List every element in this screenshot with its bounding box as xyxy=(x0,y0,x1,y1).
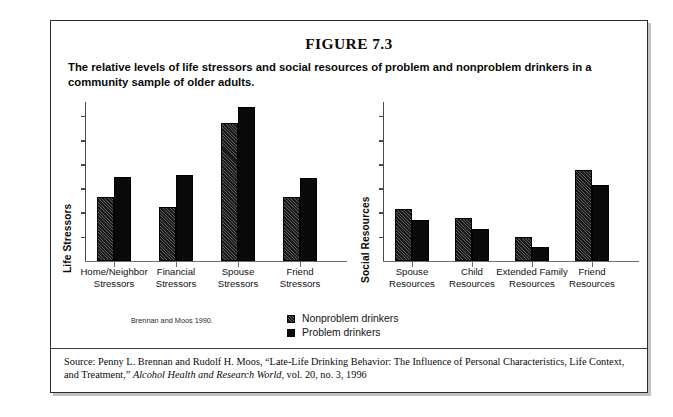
bar-problem xyxy=(532,247,549,261)
legend-item: Problem drinkers xyxy=(287,326,507,339)
bar-group xyxy=(159,102,193,261)
legend-swatch-problem-icon xyxy=(287,329,295,337)
y-axis-title-life-stressors: Life Stressors xyxy=(62,204,73,273)
bar-problem xyxy=(300,178,317,261)
bar-group xyxy=(395,102,429,261)
source-suffix: , vol. 20, no. 3, 1996 xyxy=(281,369,366,380)
bar-problem xyxy=(114,177,131,261)
bar-group xyxy=(515,102,549,261)
y-axis-tick xyxy=(81,188,87,189)
x-axis-category-label: FriendResources xyxy=(552,266,632,289)
bar-group xyxy=(283,102,317,261)
chart-citation: Brennan and Moos 1990. xyxy=(131,316,213,325)
bar-problem xyxy=(176,175,193,261)
legend-swatch-nonproblem-icon xyxy=(287,315,295,323)
bar-nonproblem xyxy=(575,170,592,261)
chart-life-stressors: Life Stressors Home/NeighborStressorsFin… xyxy=(51,103,351,318)
legend-label: Problem drinkers xyxy=(302,327,381,338)
source-divider xyxy=(51,348,647,349)
x-axis-category-labels-right: SpouseResourcesChildResourcesExtended Fa… xyxy=(351,266,649,296)
y-axis-tick xyxy=(81,164,87,165)
y-axis-line xyxy=(85,102,86,262)
figure-title: FIGURE 7.3 xyxy=(51,35,647,53)
y-axis-tick xyxy=(379,188,385,189)
y-axis-tick xyxy=(379,140,385,141)
y-axis-tick xyxy=(379,164,385,165)
bar-nonproblem xyxy=(221,123,238,261)
charts-area: Life Stressors Home/NeighborStressorsFin… xyxy=(51,103,649,318)
legend-label: Nonproblem drinkers xyxy=(302,313,398,324)
bar-nonproblem xyxy=(455,218,472,261)
y-axis-line xyxy=(383,102,384,262)
bar-group xyxy=(221,102,255,261)
y-axis-tick xyxy=(379,116,385,117)
y-axis-tick xyxy=(81,212,87,213)
legend-item: Nonproblem drinkers xyxy=(287,312,507,325)
source-text: Source: Penny L. Brennan and Rudolf H. M… xyxy=(64,355,638,381)
bar-nonproblem xyxy=(515,237,532,261)
figure-caption: The relative levels of life stressors an… xyxy=(68,60,628,90)
bar-nonproblem xyxy=(395,209,412,261)
y-axis-tick xyxy=(379,237,385,238)
bar-problem xyxy=(238,107,255,261)
chart-social-resources: Social Resources SpouseResourcesChildRes… xyxy=(351,103,649,318)
plot-area-life-stressors xyxy=(85,102,341,262)
x-axis-category-labels-left: Home/NeighborStressorsFinancialStressors… xyxy=(51,266,351,296)
bar-group xyxy=(97,102,131,261)
bar-group xyxy=(455,102,489,261)
figure-frame: FIGURE 7.3 The relative levels of life s… xyxy=(50,20,648,393)
source-journal: Alcohol Health and Research World xyxy=(133,369,282,380)
y-axis-tick xyxy=(81,140,87,141)
y-axis-tick xyxy=(81,116,87,117)
y-axis-tick xyxy=(379,212,385,213)
bar-problem xyxy=(412,220,429,261)
plot-area-social-resources xyxy=(383,102,633,262)
bar-nonproblem xyxy=(283,197,300,261)
bar-group xyxy=(575,102,609,261)
bar-nonproblem xyxy=(97,197,114,261)
bar-problem xyxy=(592,185,609,261)
bar-problem xyxy=(472,229,489,261)
chart-legend: Nonproblem drinkers Problem drinkers xyxy=(287,312,507,340)
x-axis-category-label: FriendStressors xyxy=(261,266,339,289)
bar-nonproblem xyxy=(159,207,176,261)
y-axis-tick xyxy=(81,237,87,238)
